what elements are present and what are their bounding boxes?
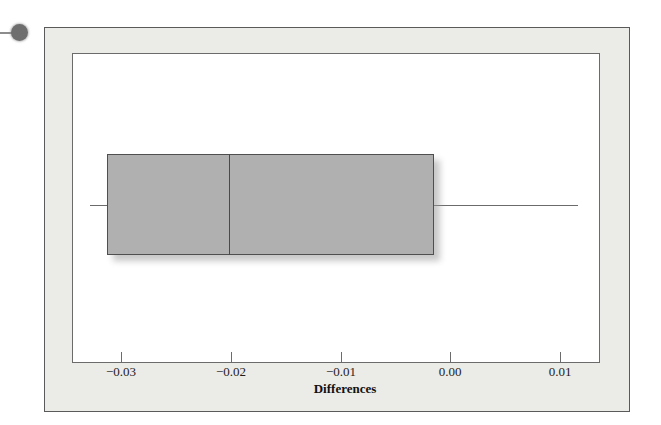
x-axis-title: Differences — [275, 381, 415, 397]
x-tick-label-2: −0.01 — [306, 364, 376, 380]
x-tick-label-4: 0.01 — [525, 364, 595, 380]
x-tick-mark-4 — [560, 352, 561, 362]
figure-container: −0.03 −0.02 −0.01 0.00 0.01 Differences — [0, 0, 661, 425]
x-tick-mark-0 — [121, 352, 122, 362]
median-line — [229, 154, 230, 255]
x-axis-line — [72, 362, 600, 363]
x-tick-label-3: 0.00 — [415, 364, 485, 380]
x-tick-label-0: −0.03 — [86, 364, 156, 380]
x-tick-mark-3 — [450, 352, 451, 362]
x-tick-mark-1 — [231, 352, 232, 362]
box-iqr — [107, 154, 434, 255]
x-tick-label-1: −0.02 — [196, 364, 266, 380]
whisker-high — [434, 205, 578, 206]
whisker-low — [90, 205, 106, 206]
x-tick-mark-2 — [341, 352, 342, 362]
